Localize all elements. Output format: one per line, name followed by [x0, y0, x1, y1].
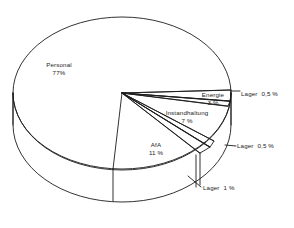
slice-label-lager-lower-right: Lager 0,5 %: [237, 142, 289, 150]
slice-label-lager-upper-right-name: Lager: [241, 90, 258, 97]
slice-label-lager-bottom-name: Lager: [203, 184, 220, 191]
slice-label-lager-lower-right-value: 0,5 %: [257, 142, 274, 149]
slice-label-afa: AfA 11 %: [143, 141, 169, 157]
slice-label-energie-name: Energie: [196, 91, 230, 99]
slice-label-instandhaltung-name: Instandhaltung: [157, 109, 217, 117]
slice-label-afa-value: 11 %: [143, 149, 169, 157]
slice-edge-afa-end: [113, 93, 122, 169]
slice-label-afa-name: AfA: [143, 141, 169, 149]
slice-label-lager-bottom-value: 1 %: [223, 184, 234, 191]
slice-label-instandhaltung-value: 7 %: [157, 117, 217, 125]
slice-label-personal-value: 77%: [38, 69, 80, 77]
slice-label-personal-name: Personal: [38, 61, 80, 69]
slice-label-energie: Energie 3 %: [196, 91, 230, 107]
pie-chart-figure: Personal 77% Energie 3 % Instandhaltung …: [0, 0, 294, 228]
slice-label-lager-upper-right: Lager 0,5 %: [241, 90, 291, 98]
slice-label-lager-lower-right-name: Lager: [237, 142, 254, 149]
pie-chart-graphic: [0, 0, 294, 228]
slice-label-instandhaltung: Instandhaltung 7 %: [157, 109, 217, 125]
slice-label-lager-bottom: Lager 1 %: [203, 184, 249, 192]
slice-label-energie-value: 3 %: [196, 99, 230, 107]
slice-label-personal: Personal 77%: [38, 61, 80, 77]
slice-label-lager-upper-right-value: 0,5 %: [261, 90, 278, 97]
